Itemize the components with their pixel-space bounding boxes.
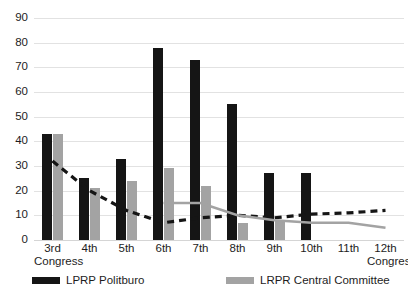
x-axis-tick-label: 4th <box>71 242 108 255</box>
y-axis-tick-label: 20 <box>2 185 28 197</box>
x-axis-tick-label: 5th <box>108 242 145 255</box>
trend-line <box>164 203 386 228</box>
x-axis-tick-text: 5th <box>119 242 135 254</box>
x-axis-labels: 3rdCongress4th5th6th7th8th9th10th11th12t… <box>34 242 404 270</box>
x-axis-tick-label: 6th <box>145 242 182 255</box>
x-axis-tick-sublabel: Congress <box>367 255 404 268</box>
x-axis-tick-label: 8th <box>219 242 256 255</box>
y-axis-tick-label: 70 <box>2 61 28 73</box>
x-axis-tick-text: 11th <box>338 242 360 254</box>
trend-lines-layer <box>34 18 404 240</box>
legend-label: LRPR Central Committee <box>260 273 390 287</box>
x-axis-tick-label: 11th <box>330 242 367 255</box>
x-axis-tick-sublabel: Congress <box>34 255 71 268</box>
y-axis-tick-label: 0 <box>2 234 28 246</box>
y-axis-tick-label: 80 <box>2 37 28 49</box>
gridline <box>34 240 404 241</box>
x-axis-tick-text: 8th <box>230 242 246 254</box>
x-axis-tick-text: 4th <box>82 242 98 254</box>
chart-container: 0102030405060708090 3rdCongress4th5th6th… <box>0 0 408 293</box>
chart-legend: LPRP PolitburoLRPR Central Committee <box>0 273 408 293</box>
trend-line <box>53 161 386 223</box>
x-axis-tick-label: 9th <box>256 242 293 255</box>
x-axis-tick-label: 12thCongress <box>367 242 404 268</box>
x-axis-tick-label: 10th <box>293 242 330 255</box>
legend-swatch <box>226 277 254 284</box>
x-axis-tick-label: 7th <box>182 242 219 255</box>
legend-item: LPRP Politburo <box>32 273 144 287</box>
legend-label: LPRP Politburo <box>66 273 144 287</box>
y-axis-tick-label: 60 <box>2 86 28 98</box>
x-axis-tick-label: 3rdCongress <box>34 242 71 268</box>
x-axis-tick-text: 9th <box>267 242 283 254</box>
y-axis-tick-label: 30 <box>2 160 28 172</box>
legend-swatch <box>32 277 60 284</box>
y-axis-tick-label: 10 <box>2 209 28 221</box>
plot-area <box>34 18 404 240</box>
x-axis-tick-text: 3rd <box>44 242 61 254</box>
legend-item: LRPR Central Committee <box>226 273 390 287</box>
x-axis-tick-text: 6th <box>156 242 172 254</box>
x-axis-tick-text: 12th <box>374 242 396 254</box>
y-axis-tick-label: 40 <box>2 135 28 147</box>
x-axis-tick-text: 7th <box>193 242 209 254</box>
x-axis-tick-text: 10th <box>300 242 322 254</box>
y-axis-tick-label: 90 <box>2 12 28 24</box>
y-axis-tick-label: 50 <box>2 111 28 123</box>
